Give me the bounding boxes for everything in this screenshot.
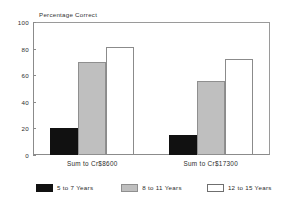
y-axis-tick-label: 20	[0, 125, 29, 132]
y-axis-tick-label: 0	[0, 152, 29, 159]
bars-layer	[33, 22, 270, 155]
legend-item[interactable]: 5 to 7 Years	[36, 184, 93, 192]
y-axis-tick-mark	[33, 22, 36, 23]
legend-swatch-icon	[121, 184, 138, 192]
y-axis-tick-mark	[33, 75, 36, 76]
chart-legend: 5 to 7 Years8 to 11 Years12 to 15 Years	[36, 182, 272, 193]
legend-label: 8 to 11 Years	[142, 184, 182, 191]
y-axis-tick-mark	[33, 128, 36, 129]
x-axis-category-label: Sum to Cr$8600	[67, 160, 118, 167]
y-axis-tick-label: 80	[0, 45, 29, 52]
bar	[78, 62, 106, 155]
x-axis-category-label: Sum to Cr$17300	[183, 160, 238, 167]
y-axis-tick-label: 40	[0, 98, 29, 105]
legend-label: 5 to 7 Years	[57, 184, 93, 191]
y-axis-tick-mark	[33, 49, 36, 50]
bar	[50, 128, 78, 155]
legend-swatch-icon	[207, 184, 224, 192]
bar	[197, 81, 225, 155]
legend-item[interactable]: 12 to 15 Years	[207, 184, 272, 192]
chart-title: Percentage Correct	[39, 11, 97, 18]
y-axis-tick-label: 60	[0, 72, 29, 79]
y-axis-tick-mark	[33, 155, 36, 156]
bar	[106, 47, 134, 155]
legend-label: 12 to 15 Years	[228, 184, 272, 191]
y-axis: 020406080100	[0, 22, 29, 155]
y-axis-tick-label: 100	[0, 19, 29, 26]
x-axis-labels: Sum to Cr$8600Sum to Cr$17300	[33, 160, 270, 172]
bar	[225, 59, 253, 155]
legend-swatch-icon	[36, 184, 53, 192]
legend-item[interactable]: 8 to 11 Years	[121, 184, 182, 192]
bar-chart: Percentage Correct 020406080100 Sum to C…	[0, 0, 281, 207]
y-axis-tick-mark	[33, 102, 36, 103]
bar	[169, 135, 197, 155]
